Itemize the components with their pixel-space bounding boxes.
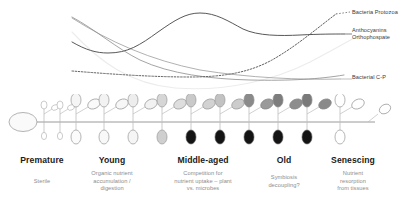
stage-sub-line: vs. microbes [174, 185, 231, 193]
nodule-segment [186, 94, 217, 144]
curve-descending-upper [72, 17, 344, 80]
curve-anthocyanins-orthophospate [72, 13, 344, 53]
stage-sub-line: Competition for [174, 170, 231, 178]
stage-sub-premature: Sterile [34, 178, 50, 186]
nodule-segment [302, 94, 333, 144]
nodule-segment [215, 94, 246, 144]
stage-sub-senescing: Nutrient resorption from tissues [337, 170, 368, 193]
nodule-segment [71, 94, 102, 144]
curve-panel [0, 0, 399, 100]
stage-label-premature: Premature [20, 155, 63, 165]
nodule-segment [128, 94, 159, 144]
root-tip-group [368, 102, 392, 122]
stage-label-old: Old [277, 155, 292, 165]
stage-sub-line: accumulation / [91, 178, 132, 186]
curve-label-anthocyanins-line1: Anthocyanins [352, 27, 390, 34]
stage-sub-line: from tissues [337, 185, 368, 193]
nodule-segment [273, 94, 304, 144]
stage-sub-line: Nutrient [337, 170, 368, 178]
stage-label-middle-aged: Middle-aged [177, 155, 228, 165]
stage-sub-old: Symbiosis decoupling? [268, 174, 299, 189]
seed-ellipse [9, 113, 37, 132]
stage-sub-line: digestion [91, 185, 132, 193]
nodule-segment [335, 94, 366, 144]
stage-sub-line: decoupling? [268, 182, 299, 190]
stage-sub-middle-aged: Competition for nutrient uptake – plant … [174, 170, 231, 193]
stage-sub-line: Sterile [34, 178, 50, 186]
stage-sub-young: Organic nutrient accumulation / digestio… [91, 170, 132, 193]
stage-sub-line: nutrient uptake – plant [174, 178, 231, 186]
curve-label-bacterial-cp: Bacterial C-P [352, 74, 386, 81]
curve-label-anthocyanins: Anthocyanins Orthophospate [352, 27, 390, 42]
stage-sub-line: Symbiosis [268, 174, 299, 182]
nodule-segment [99, 94, 130, 144]
nodule-segment [157, 94, 188, 144]
stage-sub-line: resorption [337, 178, 368, 186]
curve-bacteria-protozoa [72, 14, 336, 77]
nodule-segment [244, 94, 275, 144]
stage-label-young: Young [99, 155, 126, 165]
stage-sub-line: Organic nutrient [91, 170, 132, 178]
premature-rootlet-group-1 [41, 101, 59, 140]
curve-bacterial-cp [72, 18, 340, 79]
curve-label-bacteria-protozoa: Bacteria Protozoa [352, 9, 398, 16]
figure-root: Bacteria Protozoa Anthocyanins Orthophos… [0, 0, 399, 212]
curve-faint-background [72, 32, 360, 89]
stage-label-senescing: Senescing [331, 155, 375, 165]
root-diagram [0, 94, 399, 154]
leader-bacteria-protozoa [336, 12, 350, 14]
curve-label-orthophospate-line2: Orthophospate [352, 34, 390, 41]
